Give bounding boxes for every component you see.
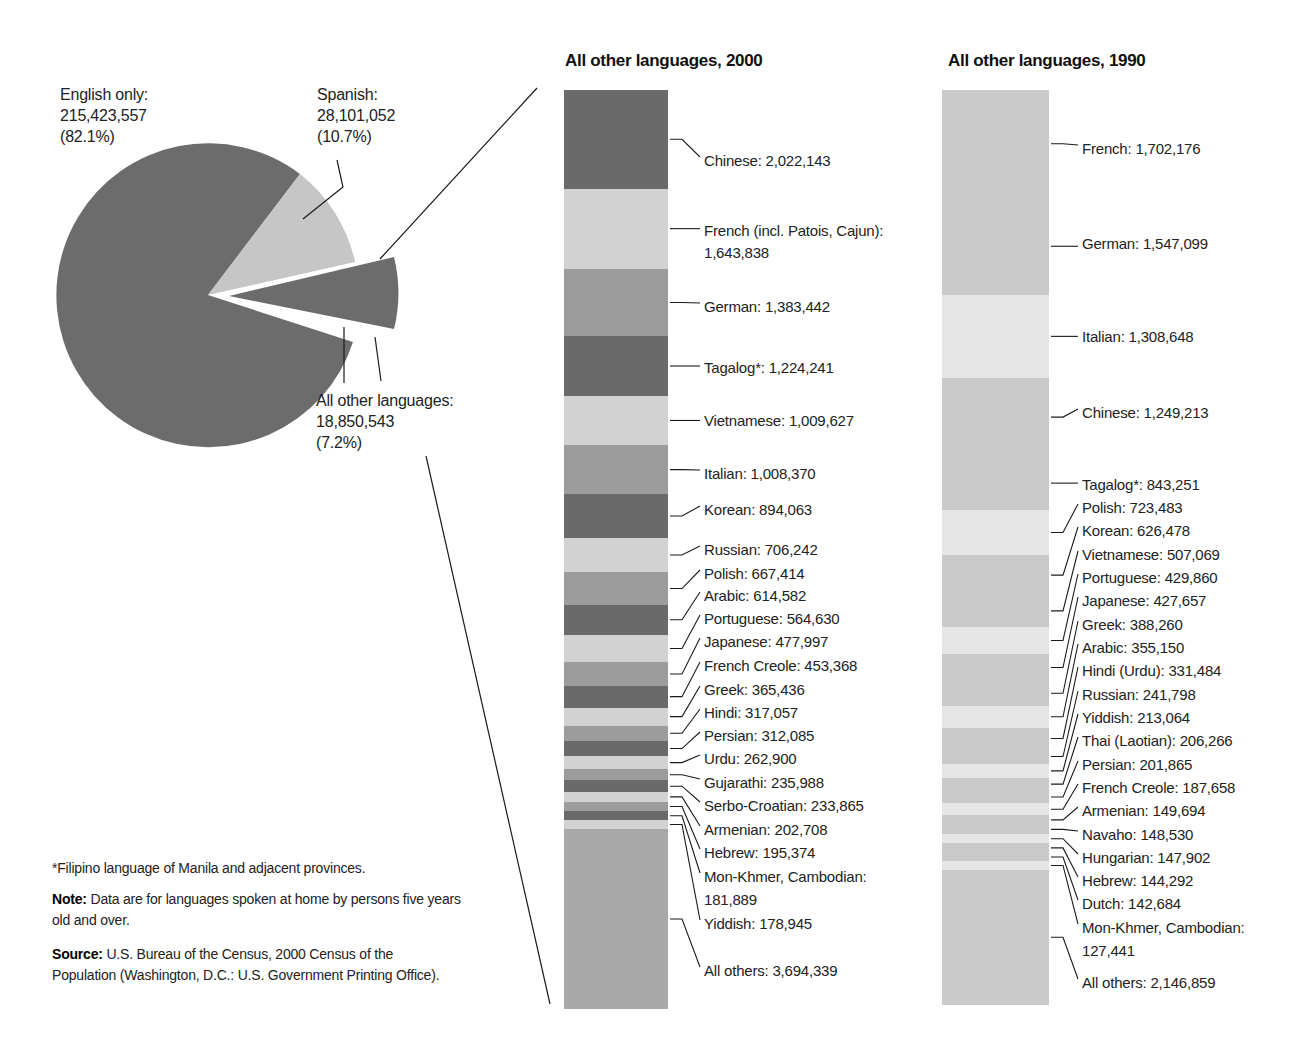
bar-label: Dutch: 142,684 xyxy=(1082,893,1181,914)
bar-segment-arabic xyxy=(942,706,1049,729)
bar-label: French Creole: 453,368 xyxy=(704,655,857,676)
bar-label: Vietnamese: 507,069 xyxy=(1082,544,1220,565)
bar-segment-greek xyxy=(942,681,1049,706)
bar-label: Tagalog*: 1,224,241 xyxy=(704,357,834,378)
bar-label: Serbo-Croatian: 233,865 xyxy=(704,795,864,816)
note-label: Note: xyxy=(52,891,87,907)
footnote-note: Note: Data are for languages spoken at h… xyxy=(52,889,472,931)
bar-segment-armenian xyxy=(942,815,1049,825)
bar-segment-korean xyxy=(942,555,1049,595)
source-label: Source: xyxy=(52,946,103,962)
bar-label: Gujarathi: 235,988 xyxy=(704,772,824,793)
footnote-source: Source: U.S. Bureau of the Census, 2000 … xyxy=(52,944,452,986)
bar-segment-french-creole xyxy=(564,686,668,709)
pie-label-english: English only: 215,423,557 (82.1%) xyxy=(60,84,148,147)
bar-label: Polish: 667,414 xyxy=(704,563,804,584)
bar-segment-armenian xyxy=(564,792,668,802)
bar-label: Urdu: 262,900 xyxy=(704,748,796,769)
bar-label: Armenian: 202,708 xyxy=(704,819,827,840)
bar-label: Hebrew: 195,374 xyxy=(704,842,815,863)
bar-segment-japanese xyxy=(564,662,668,686)
bar-2000-leader-lines xyxy=(670,139,700,967)
bar-label: Japanese: 427,657 xyxy=(1082,590,1206,611)
bar-label: Portuguese: 429,860 xyxy=(1082,567,1217,588)
bar-label: 181,889 xyxy=(704,889,757,910)
bar-label: Persian: 201,865 xyxy=(1082,754,1192,775)
bar-2000-title: All other languages, 2000 xyxy=(565,51,763,71)
bar-segment-navaho xyxy=(942,825,1049,835)
bar-segment-french-creole xyxy=(942,803,1049,815)
bar-label: Hungarian: 147,902 xyxy=(1082,847,1210,868)
bar-segment-arabic xyxy=(564,605,668,635)
bar-segment-greek xyxy=(564,708,668,726)
footnote-asterisk: *Filipino language of Manila and adjacen… xyxy=(52,858,472,879)
bar-segment-persian xyxy=(942,791,1049,804)
bar-segment-thai-laotian xyxy=(942,778,1049,792)
bar-segment-chinese xyxy=(942,378,1049,457)
bar-segment-french-incl-patois-cajun xyxy=(564,189,668,270)
bar-label: Korean: 894,063 xyxy=(704,499,812,520)
bar-label: Greek: 365,436 xyxy=(704,679,805,700)
bar-label: Arabic: 355,150 xyxy=(1082,637,1184,658)
bar-label: Navaho: 148,530 xyxy=(1082,824,1193,845)
bar-label: Yiddish: 213,064 xyxy=(1082,707,1190,728)
bar-segment-italian xyxy=(942,295,1049,378)
bar-label: Thai (Laotian): 206,266 xyxy=(1082,730,1233,751)
bar-label: 127,441 xyxy=(1082,940,1135,961)
bar-segment-tagalog xyxy=(564,336,668,396)
bar-label: Korean: 626,478 xyxy=(1082,520,1190,541)
bar-segment-japanese xyxy=(942,654,1049,681)
bar-segment-persian xyxy=(564,741,668,757)
bar-label: Japanese: 477,997 xyxy=(704,631,828,652)
bar-label: Italian: 1,008,370 xyxy=(704,463,816,484)
bar-segment-vietnamese xyxy=(942,595,1049,628)
bar-label: Yiddish: 178,945 xyxy=(704,913,812,934)
bar-label: All others: 3,694,339 xyxy=(704,960,837,981)
bar-label: Greek: 388,260 xyxy=(1082,614,1183,635)
bar-segment-gujarathi xyxy=(564,769,668,781)
bar-label: Portuguese: 564,630 xyxy=(704,608,839,629)
bar-label: French (incl. Patois, Cajun): xyxy=(704,220,883,241)
bar-label: Chinese: 1,249,213 xyxy=(1082,402,1209,423)
bar-label: Vietnamese: 1,009,627 xyxy=(704,410,854,431)
bar-segment-hindi-urdu xyxy=(942,728,1049,749)
bar-segment-french xyxy=(942,90,1049,198)
note-text: Data are for languages spoken at home by… xyxy=(52,891,461,928)
bar-segment-serbo-croatian xyxy=(564,780,668,792)
bar-segment-all-others xyxy=(942,870,1049,1006)
bar-label: German: 1,383,442 xyxy=(704,296,830,317)
bar-segment-portuguese xyxy=(942,627,1049,655)
bar-segment-portuguese xyxy=(564,635,668,663)
bar-label: French: 1,702,176 xyxy=(1082,138,1200,159)
bar-segment-polish xyxy=(942,510,1049,556)
bar-label: Mon-Khmer, Cambodian: xyxy=(704,866,867,887)
bar-label: Polish: 723,483 xyxy=(1082,497,1182,518)
stacked-bar-1990 xyxy=(942,90,1049,1005)
bar-segment-german xyxy=(942,197,1049,295)
bar-segment-german xyxy=(564,269,668,337)
bar-label: French Creole: 187,658 xyxy=(1082,777,1235,798)
bar-1990-title: All other languages, 1990 xyxy=(948,51,1146,71)
bar-label: Persian: 312,085 xyxy=(704,725,814,746)
bar-label: Hindi: 317,057 xyxy=(704,702,798,723)
bar-1990-leader-lines xyxy=(1051,144,1078,979)
bar-label: Tagalog*: 843,251 xyxy=(1082,474,1200,495)
bar-label: Hindi (Urdu): 331,484 xyxy=(1082,660,1221,681)
bar-label: Russian: 241,798 xyxy=(1082,684,1196,705)
bar-label: Arabic: 614,582 xyxy=(704,585,806,606)
bar-label: Russian: 706,242 xyxy=(704,539,818,560)
bar-label: All others: 2,146,859 xyxy=(1082,972,1215,993)
bar-label: German: 1,547,099 xyxy=(1082,233,1208,254)
bar-segment-yiddish xyxy=(942,764,1049,778)
pie-label-spanish: Spanish: 28,101,052 (10.7%) xyxy=(317,84,395,147)
bar-segment-italian xyxy=(564,445,668,495)
bar-label: Chinese: 2,022,143 xyxy=(704,150,831,171)
bar-segment-polish xyxy=(564,572,668,605)
bar-label: Mon-Khmer, Cambodian: xyxy=(1082,917,1245,938)
bar-segment-tagalog xyxy=(942,457,1049,511)
pie-label-other-languages: All other languages: 18,850,543 (7.2%) xyxy=(316,390,453,453)
bar-segment-russian xyxy=(564,538,668,573)
source-text: U.S. Bureau of the Census, 2000 Census o… xyxy=(52,946,439,983)
bar-segment-vietnamese xyxy=(564,396,668,446)
bar-segment-hindi xyxy=(564,726,668,742)
